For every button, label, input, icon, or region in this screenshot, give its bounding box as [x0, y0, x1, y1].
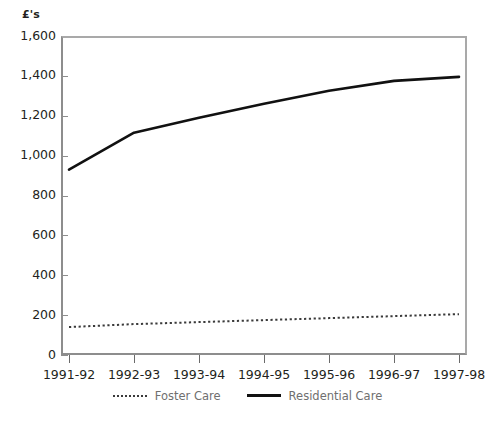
y-axis-tick-mark	[61, 235, 68, 236]
y-axis-tick-label: 200	[4, 309, 56, 322]
y-axis-tick-mark	[61, 116, 68, 117]
y-axis-tick-label: 1,200	[4, 109, 56, 122]
x-axis-tick-label: 1994-95	[238, 368, 290, 382]
y-axis-tick-mark	[61, 355, 68, 356]
x-axis-tick-mark	[69, 355, 70, 363]
x-axis-tick-mark	[459, 355, 460, 363]
y-axis-tick-label: 600	[4, 229, 56, 242]
legend-label-residential-care: Residential Care	[289, 389, 383, 403]
y-axis-tick-label: 1,400	[4, 69, 56, 82]
dotted-line-icon	[113, 392, 147, 400]
x-axis-tick-label: 1996-97	[368, 368, 420, 382]
x-axis-tick-label: 1997-98	[433, 368, 485, 382]
chart-legend: Foster Care Residential Care	[0, 389, 495, 403]
y-axis-tick-mark	[61, 315, 68, 316]
footer-ghost-text	[0, 421, 495, 429]
y-axis-tick-mark	[61, 156, 68, 157]
legend-label-foster-care: Foster Care	[155, 389, 221, 403]
y-axis-tick-label: 1,000	[4, 149, 56, 162]
x-axis-tick-label: 1992-93	[108, 368, 160, 382]
plot-series-layer	[61, 36, 467, 355]
x-axis-tick-mark	[134, 355, 135, 363]
y-axis-tick-label: 400	[4, 269, 56, 282]
x-axis-tick-label: 1995-96	[303, 368, 355, 382]
series-line-residential-care	[69, 77, 459, 170]
x-axis-tick-label: 1993-94	[173, 368, 225, 382]
x-axis-tick-label: 1991-92	[43, 368, 95, 382]
legend-entry-foster-care: Foster Care	[113, 389, 221, 403]
y-axis-tick-labels: 02004006008001,0001,2001,4001,600	[0, 0, 56, 429]
x-axis-tick-mark	[394, 355, 395, 363]
y-axis-tick-mark	[61, 275, 68, 276]
x-axis-tick-mark	[264, 355, 265, 363]
x-axis-tick-mark	[329, 355, 330, 363]
y-axis-tick-label: 800	[4, 189, 56, 202]
series-line-foster-care	[69, 314, 459, 327]
y-axis-tick-mark	[61, 196, 68, 197]
solid-line-icon	[247, 392, 281, 400]
y-axis-tick-label: 1,600	[4, 30, 56, 43]
x-axis-tick-mark	[199, 355, 200, 363]
legend-entry-residential-care: Residential Care	[247, 389, 383, 403]
line-chart: £'s 02004006008001,0001,2001,4001,600 19…	[0, 0, 495, 429]
y-axis-tick-mark	[61, 76, 68, 77]
y-axis-tick-label: 0	[4, 349, 56, 362]
